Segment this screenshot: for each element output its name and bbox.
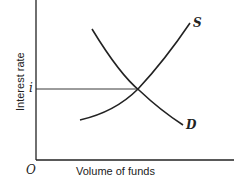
equilibrium-rate-label: i xyxy=(29,81,33,95)
x-axis-label: Volume of funds xyxy=(76,165,155,177)
demand-label: D xyxy=(186,118,196,132)
supply-label: S xyxy=(193,16,202,30)
origin-label: O xyxy=(26,163,36,177)
y-axis-label: Interest rate xyxy=(14,52,26,111)
